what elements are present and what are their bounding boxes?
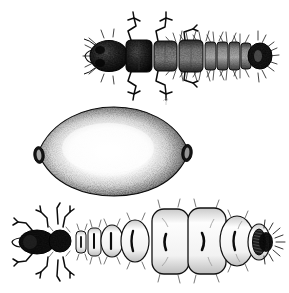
female-abdomen-segment xyxy=(152,209,189,274)
female-abdomen-segment xyxy=(76,231,86,253)
larva-tail-tip xyxy=(248,43,272,69)
female-prothorax xyxy=(49,230,71,252)
larva-mesothorax xyxy=(154,41,177,71)
larva-abdomen-segment xyxy=(217,42,228,70)
larva-abdomen-segment xyxy=(229,42,240,70)
larva-prothorax xyxy=(126,40,152,72)
plate-canvas xyxy=(0,0,289,293)
female-abdomen-segment xyxy=(121,220,149,262)
larva-abdomen xyxy=(205,42,251,70)
illustration-plate xyxy=(0,0,289,293)
female-abdomen-segment xyxy=(101,225,123,257)
larva-abdomen-segment xyxy=(205,42,216,70)
female-abdomen-segment xyxy=(88,228,101,256)
egg-highlight xyxy=(62,123,154,173)
larva-metathorax xyxy=(179,40,203,72)
